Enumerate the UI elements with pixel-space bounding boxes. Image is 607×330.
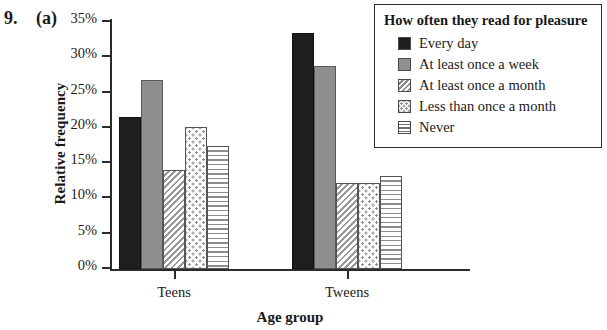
legend-item-label: At least once a month: [419, 77, 545, 94]
x-axis-tick-label: Teens: [114, 284, 234, 301]
y-axis-tick-label: 25%: [70, 81, 97, 98]
y-axis-tick-label: 20%: [70, 116, 97, 133]
y-axis-tick: 35%: [102, 20, 110, 22]
bar: [314, 66, 336, 269]
bar: [336, 183, 358, 269]
legend-item[interactable]: At least once a week: [398, 55, 593, 74]
legend-swatch-icon: [398, 100, 411, 113]
legend-swatch-icon: [398, 58, 411, 71]
legend-item[interactable]: Less than once a month: [398, 97, 593, 116]
y-axis-title: Relative frequency: [52, 34, 69, 254]
y-axis-tick: 20%: [102, 126, 110, 128]
bar: [119, 117, 141, 269]
y-axis-tick: 25%: [102, 91, 110, 93]
legend-item-label: At least once a week: [419, 56, 539, 73]
y-axis-tick-label: 0%: [78, 257, 97, 274]
x-axis-line: [110, 269, 470, 271]
y-axis-tick-label: 10%: [70, 186, 97, 203]
y-axis-tick: 30%: [102, 55, 110, 57]
legend: How often they read for pleasure Every d…: [374, 4, 602, 148]
bar: [380, 176, 402, 269]
x-axis-tick: [174, 270, 176, 279]
legend-swatch-icon: [398, 37, 411, 50]
legend-item[interactable]: Every day: [398, 34, 593, 53]
y-axis-tick-label: 15%: [70, 151, 97, 168]
legend-item[interactable]: Never: [398, 118, 593, 137]
legend-swatch-icon: [398, 79, 411, 92]
figure-part-label: (a): [36, 8, 57, 29]
legend-item-label: Less than once a month: [419, 98, 556, 115]
y-axis-tick-label: 30%: [70, 45, 97, 62]
legend-item[interactable]: At least once a month: [398, 76, 593, 95]
bar: [292, 33, 314, 269]
bar: [185, 127, 207, 269]
x-axis-tick-label: Tweens: [287, 284, 407, 301]
y-axis-tick: 10%: [102, 196, 110, 198]
legend-title: How often they read for pleasure: [384, 12, 593, 29]
legend-item-label: Never: [419, 119, 454, 136]
bar: [207, 146, 229, 269]
legend-item-list: Every dayAt least once a weekAt least on…: [384, 34, 593, 137]
y-axis-tick-label: 35%: [70, 10, 97, 27]
bar: [358, 183, 380, 269]
y-axis-line: [110, 19, 112, 271]
y-axis-tick: 0%: [102, 267, 110, 269]
figure-number: 9.: [4, 8, 18, 29]
legend-swatch-icon: [398, 121, 411, 134]
x-axis-title: Age group: [110, 309, 470, 326]
y-axis-tick: 15%: [102, 161, 110, 163]
bar: [163, 170, 185, 270]
legend-item-label: Every day: [419, 35, 478, 52]
x-axis-tick: [347, 270, 349, 279]
bar: [141, 80, 163, 269]
y-axis-tick-label: 5%: [78, 222, 97, 239]
y-axis-tick: 5%: [102, 232, 110, 234]
